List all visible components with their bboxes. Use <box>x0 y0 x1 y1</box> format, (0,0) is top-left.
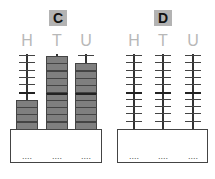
rod-tick <box>185 77 201 78</box>
column-heading-hundreds: H <box>126 33 142 49</box>
rod-tick <box>185 99 201 100</box>
rod-tick <box>155 92 171 94</box>
answer-blank-hundreds[interactable]: .... <box>125 153 143 159</box>
rod-tick <box>126 99 142 100</box>
column-heading-units: U <box>185 33 201 49</box>
rod-tick <box>155 84 171 85</box>
rod-tick <box>126 62 142 63</box>
rod-tick <box>185 106 201 107</box>
rod-tick <box>155 106 171 107</box>
rod-tick <box>155 77 171 78</box>
answer-blank-units[interactable]: .... <box>184 153 202 159</box>
rod-tick <box>155 99 171 100</box>
rod-tick <box>185 113 201 114</box>
rod-tick <box>155 62 171 63</box>
rod-tick <box>185 55 201 56</box>
rod-tick <box>126 70 142 71</box>
rod-tick <box>185 92 201 94</box>
rod-tick <box>155 70 171 71</box>
rod-tick <box>126 77 142 78</box>
answer-blank-tens[interactable]: .... <box>154 153 172 159</box>
rod-tick <box>126 84 142 85</box>
rod-tick <box>185 70 201 71</box>
rod-tick <box>126 55 142 56</box>
rod-tick <box>155 55 171 56</box>
rod-tick <box>155 113 171 114</box>
rod-tick <box>185 84 201 85</box>
rod-tick <box>185 62 201 63</box>
rod-tick <box>155 121 171 122</box>
rod-tick <box>126 121 142 122</box>
abacus-label: D <box>154 10 172 26</box>
rod-tick <box>185 121 201 122</box>
column-heading-tens: T <box>155 33 171 49</box>
abacus-d: D H T U .... .... .... <box>0 0 107 179</box>
rod-tick <box>126 92 142 94</box>
rod-tick <box>126 113 142 114</box>
rod-tick <box>126 106 142 107</box>
